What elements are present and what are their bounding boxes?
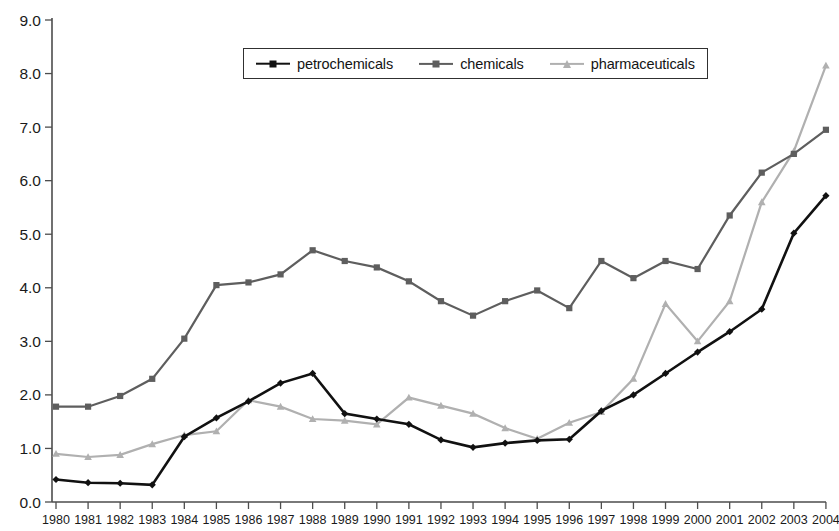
- data-point-marker: [53, 404, 59, 410]
- data-point-marker: [310, 247, 316, 253]
- y-tick-label: 2.0: [19, 386, 41, 403]
- data-point-marker: [406, 278, 412, 284]
- x-tick-label: 1991: [395, 513, 423, 527]
- x-tick-label: 2001: [716, 513, 744, 527]
- data-point-marker: [822, 62, 830, 69]
- legend-label: petrochemicals: [297, 56, 393, 72]
- legend-label: chemicals: [460, 56, 524, 72]
- data-point-marker: [662, 258, 668, 264]
- series-line-pharmaceuticals: [56, 66, 826, 457]
- data-point-marker: [277, 271, 283, 277]
- x-tick-label: 1986: [235, 513, 263, 527]
- y-tick-label: 4.0: [19, 279, 41, 296]
- x-tick-label: 1996: [555, 513, 583, 527]
- data-point-marker: [630, 375, 638, 382]
- x-tick-label: 1985: [202, 513, 230, 527]
- data-point-marker: [117, 393, 123, 399]
- data-point-marker: [823, 127, 829, 133]
- x-tick-label: 2003: [780, 513, 808, 527]
- data-point-marker: [469, 444, 476, 451]
- y-tick-label: 1.0: [19, 440, 41, 457]
- x-tick-label: 1993: [459, 513, 487, 527]
- data-point-marker: [630, 275, 636, 281]
- y-tick-label: 6.0: [19, 172, 41, 189]
- x-tick-label: 2002: [748, 513, 776, 527]
- x-tick-label: 1989: [331, 513, 359, 527]
- y-tick-label: 0.0: [19, 494, 41, 511]
- x-tick-label: 1992: [427, 513, 455, 527]
- data-point-marker: [566, 305, 572, 311]
- legend-swatch-square-icon: [419, 57, 453, 71]
- legend-item-petrochemicals[interactable]: petrochemicals: [256, 56, 393, 72]
- x-tick-label: 1997: [587, 513, 615, 527]
- data-point-marker: [213, 282, 219, 288]
- data-point-marker: [502, 298, 508, 304]
- y-tick-label: 7.0: [19, 119, 41, 136]
- x-tick-label: 1988: [299, 513, 327, 527]
- x-tick-label: 2004: [812, 513, 839, 527]
- series-chemicals: [53, 127, 829, 410]
- series-pharmaceuticals: [52, 62, 830, 460]
- x-tick-label: 1995: [523, 513, 551, 527]
- y-tick-label: 9.0: [19, 12, 41, 29]
- data-point-marker: [85, 404, 91, 410]
- data-point-marker: [598, 258, 604, 264]
- legend-swatch-triangle-icon: [550, 57, 584, 71]
- x-tick-label: 1981: [74, 513, 102, 527]
- series-line-chemicals: [56, 130, 826, 407]
- x-tick-label: 1982: [106, 513, 134, 527]
- legend-marker-diamond-icon: [270, 60, 277, 67]
- x-tick-label: 1994: [491, 513, 519, 527]
- x-tick-label: 1987: [267, 513, 295, 527]
- legend-swatch-diamond-icon: [256, 57, 290, 71]
- data-point-marker: [727, 212, 733, 218]
- data-point-marker: [470, 313, 476, 319]
- data-point-marker: [117, 480, 124, 487]
- chart-legend: petrochemicalschemicalspharmaceuticals: [243, 48, 708, 79]
- legend-marker-square-icon: [433, 60, 440, 67]
- legend-item-chemicals[interactable]: chemicals: [419, 56, 524, 72]
- y-tick-label: 3.0: [19, 333, 41, 350]
- legend-label: pharmaceuticals: [591, 56, 695, 72]
- legend-marker-triangle-icon: [563, 60, 571, 68]
- data-point-marker: [695, 266, 701, 272]
- x-tick-label: 1980: [42, 513, 70, 527]
- x-tick-label: 1990: [363, 513, 391, 527]
- y-axis-labels: 0.01.02.03.04.05.06.07.08.09.0: [19, 12, 41, 511]
- line-chart: 0.01.02.03.04.05.06.07.08.09.0 198019811…: [0, 0, 839, 531]
- data-point-marker: [438, 298, 444, 304]
- data-point-marker: [52, 476, 59, 483]
- data-point-marker: [662, 300, 670, 307]
- x-tick-label: 1984: [170, 513, 198, 527]
- y-axis-ticks: [45, 20, 52, 502]
- data-point-marker: [84, 479, 91, 486]
- x-tick-label: 1999: [652, 513, 680, 527]
- legend-item-pharmaceuticals[interactable]: pharmaceuticals: [550, 56, 695, 72]
- data-point-marker: [374, 264, 380, 270]
- x-axis-ticks: [56, 502, 826, 509]
- x-tick-label: 1983: [138, 513, 166, 527]
- y-tick-label: 8.0: [19, 65, 41, 82]
- data-point-marker: [534, 287, 540, 293]
- data-point-marker: [245, 279, 251, 285]
- data-point-marker: [181, 336, 187, 342]
- data-point-marker: [726, 297, 734, 304]
- x-tick-label: 2000: [684, 513, 712, 527]
- data-point-marker: [342, 258, 348, 264]
- y-tick-label: 5.0: [19, 226, 41, 243]
- x-axis-labels: 1980198119821983198419851986198719881989…: [42, 513, 839, 527]
- series-petrochemicals: [52, 192, 829, 488]
- chart-canvas: 0.01.02.03.04.05.06.07.08.09.0 198019811…: [0, 0, 839, 531]
- data-point-marker: [149, 376, 155, 382]
- data-series-group: [52, 62, 830, 489]
- data-point-marker: [502, 439, 509, 446]
- data-point-marker: [759, 170, 765, 176]
- data-point-marker: [791, 151, 797, 157]
- x-tick-label: 1998: [620, 513, 648, 527]
